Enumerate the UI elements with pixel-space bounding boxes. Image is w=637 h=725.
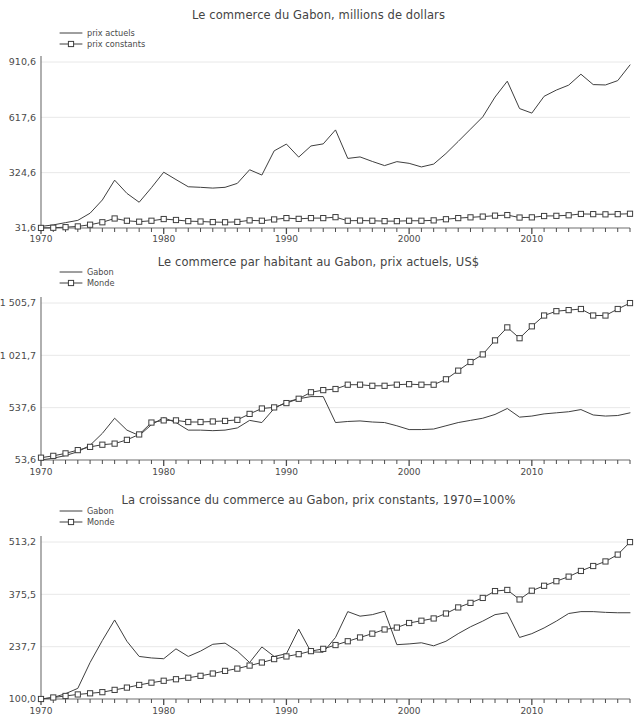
series-marker [161, 678, 166, 683]
series-marker [75, 448, 80, 453]
series-marker [443, 611, 448, 616]
series-marker [63, 693, 68, 698]
series-marker [407, 218, 412, 223]
series-marker [112, 216, 117, 221]
series-marker [419, 382, 424, 387]
series-marker [247, 411, 252, 416]
series-marker [51, 453, 56, 458]
y-axis-tick-label: 100,0 [9, 693, 36, 704]
series-marker [124, 437, 129, 442]
series-marker [161, 216, 166, 221]
chart-panel-commerce-gabon: Le commerce du Gabon, millions de dollar… [0, 0, 637, 247]
charts-page: Le commerce du Gabon, millions de dollar… [0, 0, 637, 725]
series-marker [505, 212, 510, 217]
series-marker [382, 383, 387, 388]
series-marker [357, 382, 362, 387]
series-marker [321, 216, 326, 221]
series-marker [75, 692, 80, 697]
series-marker [284, 654, 289, 659]
series-marker [443, 377, 448, 382]
series-marker [345, 639, 350, 644]
series-marker [186, 219, 191, 224]
y-axis-tick-label: 1 021,7 [0, 350, 36, 361]
series-marker [529, 215, 534, 220]
series-marker [370, 631, 375, 636]
x-axis-tick-label: 1970 [30, 467, 53, 477]
series-marker [222, 418, 227, 423]
series-marker [296, 652, 301, 657]
chart-canvas: 910,6617,6324,631,619701980199020002010p… [0, 0, 637, 247]
legend-marker [68, 280, 73, 285]
legend-label: prix constants [87, 39, 145, 49]
series-marker [456, 368, 461, 373]
series-marker [382, 219, 387, 224]
series-marker [51, 695, 56, 700]
chart-canvas: 513,2375,5237,7100,019701980199020002010… [0, 485, 637, 725]
series-marker [480, 352, 485, 357]
series-marker [615, 212, 620, 217]
series-marker [87, 691, 92, 696]
series-marker [161, 418, 166, 423]
series-marker [87, 444, 92, 449]
series-marker [345, 382, 350, 387]
series-marker [198, 419, 203, 424]
series-marker [259, 660, 264, 665]
series-marker [321, 646, 326, 651]
series-marker [100, 442, 105, 447]
series-marker [333, 386, 338, 391]
series-marker [308, 649, 313, 654]
series-marker [296, 216, 301, 221]
y-axis-tick-label: 910,6 [9, 56, 36, 67]
series-marker [370, 218, 375, 223]
series-marker [51, 225, 56, 230]
series-marker [542, 213, 547, 218]
series-marker [357, 635, 362, 640]
series-marker [370, 383, 375, 388]
series-marker [333, 215, 338, 220]
series-marker [235, 219, 240, 224]
series-marker [247, 218, 252, 223]
y-axis-tick-label: 237,7 [9, 641, 36, 652]
x-axis-tick-label: 2000 [398, 234, 421, 244]
x-axis-tick-label: 1990 [275, 234, 298, 244]
series-marker [222, 668, 227, 673]
y-axis-tick-label: 375,5 [9, 589, 36, 600]
series-marker [222, 220, 227, 225]
series-marker [517, 215, 522, 220]
series-marker [578, 211, 583, 216]
series-line-monde [41, 303, 630, 458]
series-marker [38, 696, 43, 701]
series-marker [173, 418, 178, 423]
series-marker [173, 217, 178, 222]
series-marker [627, 211, 632, 216]
x-axis-tick-label: 2010 [520, 706, 543, 716]
x-axis-tick-label: 1980 [152, 234, 175, 244]
legend-label: Gabon [87, 267, 114, 277]
series-marker [38, 225, 43, 230]
series-marker [431, 218, 436, 223]
series-marker [591, 212, 596, 217]
x-axis-tick-label: 2010 [520, 234, 543, 244]
series-marker [296, 396, 301, 401]
series-line-gabon [41, 397, 630, 460]
series-marker [308, 216, 313, 221]
legend-marker [68, 41, 73, 46]
series-marker [382, 627, 387, 632]
series-marker [627, 300, 632, 305]
series-marker [554, 579, 559, 584]
series-marker [247, 663, 252, 668]
series-marker [554, 309, 559, 314]
series-marker [210, 671, 215, 676]
series-marker [63, 225, 68, 230]
series-marker [186, 675, 191, 680]
series-marker [468, 359, 473, 364]
x-axis-tick-label: 1970 [30, 234, 53, 244]
series-marker [112, 687, 117, 692]
series-marker [431, 616, 436, 621]
series-marker [517, 336, 522, 341]
series-marker [259, 218, 264, 223]
series-marker [407, 620, 412, 625]
series-marker [591, 313, 596, 318]
series-marker [480, 214, 485, 219]
series-marker [100, 690, 105, 695]
